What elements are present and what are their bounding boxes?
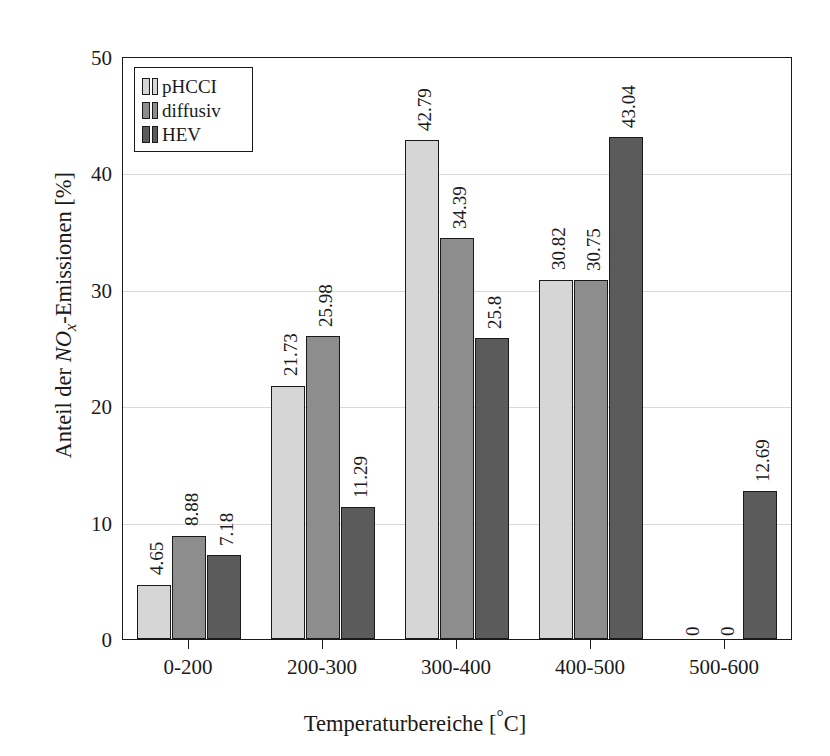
legend-swatch-narrow-pHCCI — [152, 78, 158, 95]
x-tick-mark-500-600 — [724, 640, 725, 649]
legend-item-diffusiv: diffusiv — [142, 98, 252, 122]
bar-0-200-diffusiv — [172, 536, 206, 640]
bar-label-300-400-pHCCI: 42.79 — [415, 88, 434, 131]
legend-item-pHCCI: pHCCI — [142, 74, 252, 98]
y-axis-title-nox: NOx — [51, 324, 76, 362]
bar-label-300-400-diffusiv: 34.39 — [450, 186, 469, 229]
legend-swatch-wide-HEV — [142, 126, 150, 143]
bar-label-400-500-diffusiv: 30.75 — [584, 228, 603, 271]
x-axis-title-suffix: C] — [504, 711, 527, 736]
x-tick-mark-300-400 — [456, 640, 457, 649]
y-tick-label-10: 10 — [64, 514, 112, 535]
x-tick-label-300-400: 300-400 — [421, 655, 491, 680]
x-tick-label-0-200: 0-200 — [164, 655, 213, 680]
bar-label-500-600-pHCCI: 0 — [683, 627, 702, 637]
bar-300-400-HEV — [475, 338, 509, 639]
bar-400-500-diffusiv — [574, 280, 608, 639]
bar-label-400-500-HEV: 43.04 — [619, 85, 638, 128]
y-tick-label-50: 50 — [64, 48, 112, 69]
plot-area: 4.65 8.88 7.18 21.73 25.98 11.29 42.79 3… — [122, 57, 792, 640]
bar-label-500-600-diffusiv: 0 — [718, 627, 737, 637]
bar-400-500-pHCCI — [539, 280, 573, 639]
bar-label-200-300-pHCCI: 21.73 — [281, 333, 300, 376]
legend-item-HEV: HEV — [142, 122, 252, 146]
y-tick-label-30: 30 — [64, 281, 112, 302]
bar-label-0-200-pHCCI: 4.65 — [147, 542, 166, 575]
bar-label-400-500-pHCCI: 30.82 — [549, 227, 568, 270]
legend-swatch-wide-diffusiv — [142, 102, 150, 119]
x-tick-mark-200-300 — [322, 640, 323, 649]
y-axis-title: Anteil der NOx-Emissionen [%] — [51, 35, 82, 595]
x-tick-label-500-600: 500-600 — [689, 655, 759, 680]
bar-300-400-diffusiv — [440, 238, 474, 639]
legend-swatch-wide-pHCCI — [142, 78, 150, 95]
bar-label-0-200-diffusiv: 8.88 — [182, 493, 201, 526]
bar-label-500-600-HEV: 12.69 — [753, 439, 772, 482]
y-tick-label-20: 20 — [64, 397, 112, 418]
legend-swatch-narrow-diffusiv — [152, 102, 158, 119]
bar-chart-figure: Anteil der NOx-Emissionen [%] 50 40 30 2… — [0, 0, 830, 756]
bar-0-200-pHCCI — [137, 585, 171, 639]
bar-label-300-400-HEV: 25.8 — [485, 296, 504, 329]
x-tick-mark-0-200 — [188, 640, 189, 649]
x-tick-label-400-500: 400-500 — [555, 655, 625, 680]
chart-legend: pHCCI diffusiv HEV — [134, 67, 253, 152]
x-tick-mark-400-500 — [590, 640, 591, 649]
bar-400-500-HEV — [609, 137, 643, 639]
bar-200-300-HEV — [341, 507, 375, 639]
bar-300-400-pHCCI — [405, 140, 439, 639]
legend-label-diffusiv: diffusiv — [162, 101, 221, 120]
y-tick-label-0: 0 — [64, 630, 112, 651]
bar-0-200-HEV — [207, 555, 241, 639]
bar-500-600-HEV — [743, 491, 777, 639]
x-tick-label-200-300: 200-300 — [287, 655, 357, 680]
gridline-40 — [123, 174, 791, 175]
legend-label-pHCCI: pHCCI — [162, 77, 217, 96]
y-tick-label-40: 40 — [64, 164, 112, 185]
bar-label-200-300-diffusiv: 25.98 — [316, 284, 335, 327]
bar-200-300-pHCCI — [271, 386, 305, 639]
bar-200-300-diffusiv — [306, 336, 340, 639]
bar-label-200-300-HEV: 11.29 — [351, 456, 370, 498]
x-axis-title: Temperaturbereiche [°C] — [0, 707, 830, 737]
legend-swatch-narrow-HEV — [152, 126, 158, 143]
x-axis-title-degree: ° — [496, 707, 503, 727]
legend-label-HEV: HEV — [162, 125, 201, 144]
bar-label-0-200-HEV: 7.18 — [217, 513, 236, 546]
x-axis-title-prefix: Temperaturbereiche [ — [304, 711, 497, 736]
